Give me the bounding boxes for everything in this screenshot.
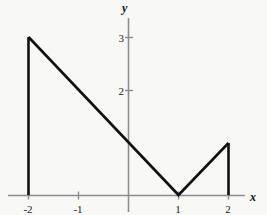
x-tick-label-neg1: -1 (73, 204, 82, 215)
x-tick-label-neg2: -2 (23, 204, 32, 215)
x-tick-label-2: 2 (225, 204, 231, 215)
x-tick-label-1: 1 (175, 204, 181, 215)
y-axis-label: y (122, 2, 127, 14)
y-tick-label-3: 3 (114, 33, 124, 44)
x-axis-label: x (250, 191, 256, 203)
plot-canvas (0, 0, 267, 215)
function-plot-figure: -2 -1 1 2 3 2 x y (0, 0, 267, 215)
y-tick-label-2: 2 (114, 86, 124, 97)
